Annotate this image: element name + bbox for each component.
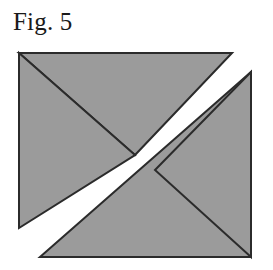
figure-container: Fig. 5 [0, 0, 273, 270]
figure-diagram [0, 0, 273, 270]
